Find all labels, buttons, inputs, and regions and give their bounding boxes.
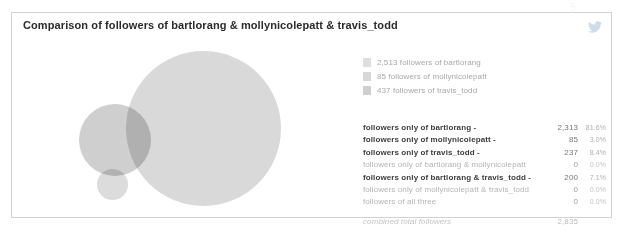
stat-percent: 81.6% [578,124,606,131]
stat-label: followers only of mollynicolepatt & trav… [363,185,544,194]
table-row[interactable]: followers only of bartlorang & mollynico… [363,160,606,172]
stat-label: followers only of bartlorang - [363,123,544,132]
legend: 2,513 followers of bartlorang 85 followe… [363,57,603,99]
stat-value: 0 [544,185,578,194]
stat-label: followers only of mollynicolepatt - [363,135,544,144]
twitter-bird-icon [588,20,602,34]
card-header: Comparison of followers of bartlorang & … [12,13,611,41]
legend-item-travis-todd: 437 followers of travis_todd [363,85,603,96]
comparison-card: Comparison of followers of bartlorang & … [11,12,612,218]
page-title: Comparison of followers of bartlorang & … [23,19,398,31]
table-row[interactable]: followers only of bartlorang & travis_to… [363,173,606,185]
legend-swatch-icon [363,58,371,67]
stat-label: followers only of travis_todd - [363,148,544,157]
venn-circle-mollynicolepatt[interactable] [97,169,128,200]
stat-percent: 0.0% [578,198,606,205]
legend-item-bartlorang: 2,513 followers of bartlorang [363,57,603,68]
stats-table: followers only of bartlorang - 2,313 81.… [363,123,606,226]
venn-diagram [13,41,343,217]
stat-value: 0 [544,160,578,169]
stat-label: followers only of bartlorang & mollynico… [363,160,544,169]
stat-value: 2,313 [544,123,578,132]
stat-value: 0 [544,197,578,206]
combined-total-row: combined total followers 2,835 [363,217,606,226]
stat-value: 237 [544,148,578,157]
stat-percent: 7.1% [578,174,606,181]
stat-percent: 0.0% [578,186,606,193]
legend-swatch-icon [363,86,371,95]
stat-percent: 8.4% [578,149,606,156]
legend-item-label: 2,513 followers of bartlorang [377,58,481,67]
stat-value: 200 [544,173,578,182]
legend-item-label: 437 followers of travis_todd [377,86,477,95]
stat-percent: 3.0% [578,136,606,143]
legend-item-label: 85 followers of mollynicolepatt [377,72,487,81]
legend-swatch-icon [363,72,371,81]
stat-label: followers only of bartlorang & travis_to… [363,173,544,182]
table-row[interactable]: followers only of bartlorang - 2,313 81.… [363,123,606,135]
stat-percent: 0.0% [578,161,606,168]
venn-circle-travis-todd[interactable] [79,104,151,176]
table-row[interactable]: followers of all three 0 0.0% [363,197,606,209]
table-row[interactable]: followers only of mollynicolepatt - 85 3… [363,135,606,147]
stat-label: followers of all three [363,197,544,206]
table-row[interactable]: followers only of mollynicolepatt & trav… [363,185,606,197]
table-row[interactable]: followers only of travis_todd - 237 8.4% [363,148,606,160]
legend-item-mollynicolepatt: 85 followers of mollynicolepatt [363,71,603,82]
stat-value: 85 [544,135,578,144]
combined-total-value: 2,835 [544,217,578,226]
combined-total-label: combined total followers [363,217,544,226]
